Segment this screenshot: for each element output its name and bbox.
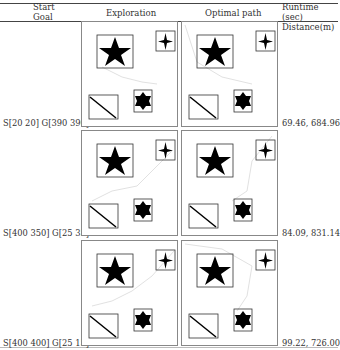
header-start: Start (33, 2, 55, 12)
row-2-start-goal: S[400 350] G[25 35] (3, 228, 89, 238)
row-3-exploration-image (81, 240, 178, 346)
optimal-path-map (182, 131, 278, 236)
header-runtime-distance: Runtime (sec) Distance(m) (282, 2, 338, 32)
row-1-start-goal: S[20 20] G[390 390] (3, 118, 89, 128)
row-3-runtime-distance: 99.22, 726.00 (282, 338, 340, 348)
four-point-star-obstacle-icon (158, 33, 173, 50)
row-2-optimal-path-image (181, 130, 278, 236)
row-3-optimal-path-image (181, 240, 278, 346)
optimal-path-map (182, 22, 278, 127)
row-1-optimal-path-image (181, 21, 278, 127)
header-runtime: Runtime (sec) (282, 2, 338, 22)
header-start-goal: Start Goal (33, 2, 55, 22)
exploration-map (82, 131, 178, 236)
row-1-runtime-distance: 69.46, 684.96 (282, 118, 340, 128)
diagonal-line-obstacle-icon (90, 97, 116, 118)
header-optimal-path: Optimal path (205, 8, 262, 18)
row-2-exploration-image (81, 130, 178, 236)
row-1-exploration-image (81, 21, 178, 127)
optimal-path-map (182, 241, 278, 346)
header-distance: Distance(m) (282, 22, 338, 32)
header-goal: Goal (33, 12, 55, 22)
star-obstacle-icon (99, 37, 131, 66)
exploration-map (82, 22, 178, 127)
six-point-star-obstacle-icon (135, 92, 151, 110)
exploration-map (82, 241, 178, 346)
row-2-runtime-distance: 84.09, 831.14 (282, 228, 340, 238)
header-exploration: Exploration (106, 8, 156, 18)
row-3-start-goal: S[400 400] G[25 15] (3, 338, 89, 348)
